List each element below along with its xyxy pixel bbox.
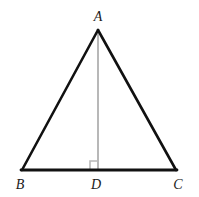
triangle-diagram-svg: A B D C (0, 0, 199, 197)
vertex-label-D: D (90, 177, 101, 192)
geometry-figure: A B D C (0, 0, 199, 197)
vertex-label-C: C (173, 177, 183, 192)
triangle-side-AB (22, 30, 98, 170)
vertex-label-B: B (16, 177, 25, 192)
right-angle-marker-at-D (90, 161, 98, 169)
triangle-side-AC (98, 30, 176, 170)
vertex-label-A: A (93, 9, 103, 24)
